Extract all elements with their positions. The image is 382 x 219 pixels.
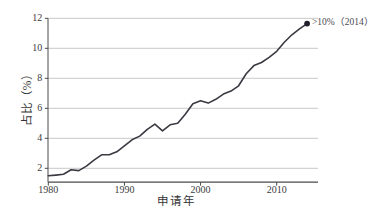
y-axis-title: 占比（%） — [18, 68, 34, 127]
y-tick-label-10: 10 — [32, 42, 42, 54]
x-tick-label-1980: 1980 — [38, 184, 58, 196]
x-tick-label-2010: 2010 — [267, 184, 287, 196]
x-axis-title: 申请年 — [157, 192, 196, 208]
y-tick-label-12: 12 — [32, 12, 42, 24]
endpoint-annotation: >10%（2014） — [312, 14, 374, 28]
proportion-by-application-year-line-chart: 24681012 1980199020002010 占比（%） 申请年 >10%… — [0, 0, 382, 219]
y-tick-label-4: 4 — [37, 132, 42, 144]
y-tick-label-6: 6 — [37, 102, 42, 114]
endpoint-marker-icon — [304, 21, 310, 27]
y-tick-label-2: 2 — [37, 162, 42, 174]
x-tick-label-1990: 1990 — [114, 184, 134, 196]
data-line — [48, 24, 307, 176]
y-tick-label-8: 8 — [37, 72, 42, 84]
